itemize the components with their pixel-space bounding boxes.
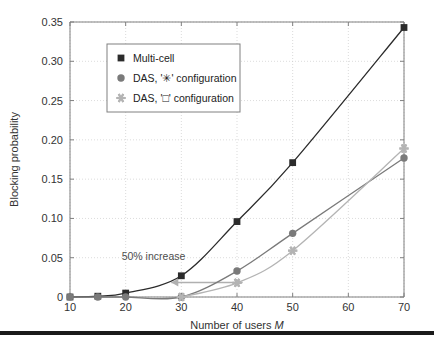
x-axis-label-prefix: Number of users (190, 319, 274, 331)
figure-container: 10203040506070 00.050.100.150.200.250.30… (0, 0, 434, 344)
series-1-point-0 (66, 293, 73, 300)
series-1-point-5 (289, 230, 296, 237)
text-annotations: 50% increase (122, 250, 186, 262)
y-tick-label: 0.20 (42, 134, 63, 146)
y-tick-label: 0.35 (42, 16, 63, 28)
legend-label-0: Multi-cell (133, 52, 174, 64)
series-1-point-4 (233, 267, 240, 274)
y-axis-label: Blocking probability (8, 112, 20, 207)
legend-label-2: DAS, '□' configuration (133, 92, 234, 104)
series-1-point-2 (122, 293, 129, 300)
x-tick-label: 70 (398, 301, 410, 313)
x-tick-label: 40 (231, 301, 243, 313)
legend-marker-1 (117, 74, 124, 81)
y-tick-label: 0.05 (42, 252, 63, 264)
y-tick-label: 0.10 (42, 212, 63, 224)
series-1-point-6 (400, 154, 407, 161)
chart-legend: Multi-cellDAS, '✳' configurationDAS, '□'… (107, 44, 240, 112)
series-0-point-4 (234, 218, 241, 225)
x-axis-label-symbol: M (275, 319, 285, 331)
legend-label-1: DAS, '✳' configuration (133, 72, 237, 84)
x-tick-label: 50 (287, 301, 299, 313)
x-tick-label: 10 (64, 301, 76, 313)
y-tick-label: 0.30 (42, 55, 63, 67)
y-tick-label: 0.15 (42, 173, 63, 185)
annotation-text-0: 50% increase (122, 250, 186, 262)
x-tick-label: 60 (342, 301, 354, 313)
series-0-point-6 (401, 24, 408, 31)
x-tick-label: 20 (120, 301, 132, 313)
y-tick-label: 0 (57, 291, 63, 303)
series-0-point-3 (178, 272, 185, 279)
x-axis-label: Number of users M (190, 319, 284, 331)
legend-marker-0 (118, 55, 125, 62)
x-tick-label: 30 (175, 301, 187, 313)
series-0-point-5 (289, 159, 296, 166)
series-1-point-1 (94, 293, 101, 300)
y-tick-label: 0.25 (42, 95, 63, 107)
blocking-probability-chart: 10203040506070 00.050.100.150.200.250.30… (0, 0, 434, 344)
figure-bottom-rule (0, 331, 434, 335)
